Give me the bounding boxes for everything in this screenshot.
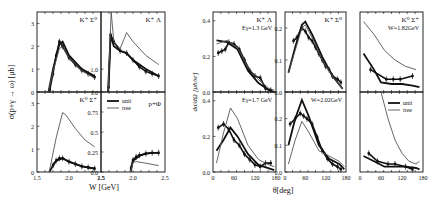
curve-unit xyxy=(49,158,94,172)
panel-label: K⁰ Σ⁺ xyxy=(402,16,420,24)
right-ylabel: dσ/dΩ [μb/sr] xyxy=(191,72,199,111)
legend: unittree xyxy=(107,98,132,111)
y-tick-label: 0.1 xyxy=(275,58,283,64)
x-tick-label: 180 xyxy=(272,175,281,181)
chart-panel-angular-2-bottom: 0.00.10.2W=2.02GeV xyxy=(275,92,347,176)
chart-panel-angular-1-top: 0.00.20.4K⁺ ΛEγ=1.3 GeV xyxy=(203,12,277,96)
panel-label: p+Φ xyxy=(148,100,161,108)
data-band xyxy=(218,124,270,167)
panel-sublabel: Eγ=1.7 GeV xyxy=(242,97,273,103)
y-tick-label: 0.75 xyxy=(88,110,99,116)
x-tick-label: 2.5 xyxy=(161,175,169,181)
y-tick-label: 0.0 xyxy=(203,90,211,96)
panel-sublabel: Eγ=1.3 GeV xyxy=(242,25,273,31)
svg-text:unit: unit xyxy=(122,98,132,104)
y-tick-label: 0 xyxy=(31,90,34,96)
chart-panel-angular-3-bottom xyxy=(360,92,423,172)
y-tick-label: 1.0 xyxy=(91,90,99,96)
x-tick-label: 0 xyxy=(284,175,287,181)
y-tick-label: 1 xyxy=(31,67,34,73)
y-tick-label: 0.4 xyxy=(203,18,211,24)
data-band xyxy=(50,42,95,90)
svg-text:unit: unit xyxy=(403,100,413,106)
y-tick-label: 0.4 xyxy=(203,98,211,104)
left-xlabel: W [GeV] xyxy=(89,183,119,192)
x-tick-label: 0 xyxy=(212,175,215,181)
x-tick-label: 180 xyxy=(342,175,351,181)
chart-panel-angular-3-top: K⁰ Σ⁺W=1.82GeV xyxy=(360,12,423,92)
panel-sublabel: W=1.82GeV xyxy=(388,25,420,31)
x-tick-label: 2.0 xyxy=(129,175,137,181)
y-tick-label: 0.5 xyxy=(91,130,99,136)
panel-label: K⁺ Σ⁰ xyxy=(80,16,98,24)
x-tick-label: 2.0 xyxy=(65,175,73,181)
x-tick-label: 1.5 xyxy=(33,175,41,181)
y-tick-label: 0.2 xyxy=(275,116,283,122)
x-tick-label: 60 xyxy=(302,175,308,181)
x-tick-label: 60 xyxy=(378,175,384,181)
curve-unit xyxy=(49,42,95,92)
curve-tree xyxy=(49,46,95,92)
y-tick-label: 2 xyxy=(31,124,34,130)
x-tick-label: 120 xyxy=(398,175,407,181)
data-band xyxy=(131,153,159,168)
y-tick-label: 3 xyxy=(31,21,34,27)
curve-tree xyxy=(288,25,342,89)
svg-text:tree: tree xyxy=(122,105,131,111)
curve-unit xyxy=(364,156,420,169)
chart-panel-top-left: 0123K⁺ Σ⁰ xyxy=(31,12,101,96)
y-tick-label: 1 xyxy=(31,147,34,153)
panel-label: K⁺ Σ⁰ xyxy=(325,16,343,24)
y-tick-label: 0.0 xyxy=(275,90,283,96)
x-tick-label: 120 xyxy=(251,175,260,181)
y-tick-label: 0.0 xyxy=(203,170,211,176)
y-tick-label: 0.2 xyxy=(203,54,211,60)
legend: unittree xyxy=(388,100,413,113)
figure-canvas: σ(p+γ → ω) [μb] W [GeV] dσ/dΩ [μb/sr] θ[… xyxy=(0,0,441,204)
left-ylabel: σ(p+γ → ω) [μb] xyxy=(7,64,16,119)
x-tick-label: 0 xyxy=(359,175,362,181)
y-tick-label: 0.2 xyxy=(203,134,211,140)
y-tick-label: 3 xyxy=(31,101,34,107)
curve-tree xyxy=(288,121,344,166)
right-xlabel: θ[deg] xyxy=(273,186,294,195)
x-tick-label: 180 xyxy=(419,175,428,181)
panel-label: K⁺ Λ xyxy=(145,16,161,24)
chart-panel-angular-2-top: 0.00.10.2K⁺ Σ⁰ xyxy=(275,12,347,96)
x-tick-label: 1.5 xyxy=(97,175,105,181)
y-tick-label: 0.1 xyxy=(275,143,283,149)
curve-tree xyxy=(381,92,420,164)
svg-text:tree: tree xyxy=(403,107,412,113)
y-tick-label: 0.2 xyxy=(275,26,283,32)
y-tick-label: 0.25 xyxy=(88,150,99,156)
panel-label: K⁰ Σ⁺ xyxy=(80,96,98,104)
chart-panel-angular-1-bottom: 0.00.20.4Eγ=1.7 GeV xyxy=(203,92,277,176)
panel-sublabel: W=2.02GeV xyxy=(311,97,343,103)
x-tick-label: 60 xyxy=(231,175,237,181)
chart-panel-top-right: 1.0K⁺ Λ xyxy=(91,12,166,92)
panel-label: K⁺ Λ xyxy=(256,16,272,24)
y-tick-label: 1.0 xyxy=(91,67,99,73)
data-band xyxy=(294,28,341,82)
x-tick-label: 120 xyxy=(321,175,330,181)
curve-tree xyxy=(130,162,158,172)
y-tick-label: 2 xyxy=(31,44,34,50)
curve-tree xyxy=(108,12,159,92)
